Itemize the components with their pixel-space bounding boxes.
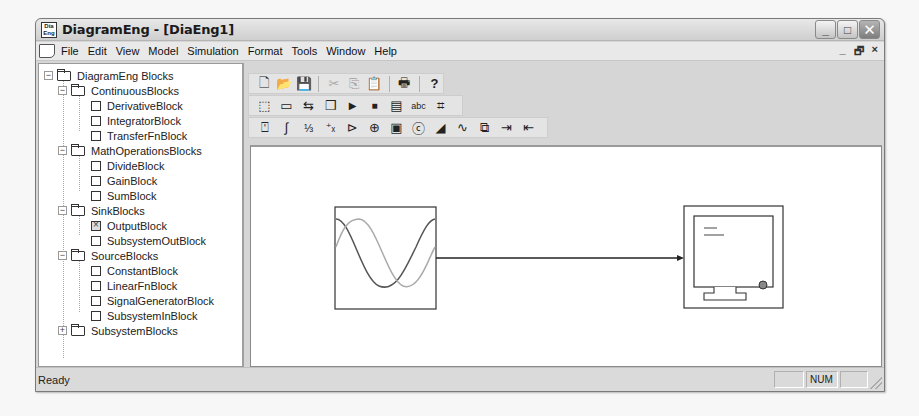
collapse-icon[interactable]: − [58,206,67,215]
tree-item-gain-block[interactable]: GainBlock [91,173,157,188]
tree-item-label: DivideBlock [107,160,164,172]
menu-window[interactable]: Window [326,45,365,57]
new-icon[interactable]: 🗋 [255,75,272,93]
toolbar-separator [318,76,319,92]
tree-item-label: TransferFnBlock [107,130,187,142]
main-window: Dia Eng DiagramEng - [DiaEng1] _ □ ✕ Fil… [35,18,885,392]
menu-file[interactable]: File [61,45,79,57]
menu-format[interactable]: Format [248,45,283,57]
tree-group-source[interactable]: − SourceBlocks [58,248,158,263]
tree-group-label: SourceBlocks [91,250,158,262]
tree-item-label: GainBlock [107,175,157,187]
help-icon[interactable]: ? [426,75,443,93]
title-bar[interactable]: Dia Eng DiagramEng - [DiaEng1] _ □ ✕ [36,19,884,41]
paste-icon[interactable]: 📋 [366,75,383,93]
stop-simulation-icon[interactable]: ■ [365,97,384,115]
tree-group-continuous[interactable]: − ContinuousBlocks [58,83,179,98]
mdi-restore-button[interactable]: 🗗 [854,43,864,62]
tree-group-label: SubsystemBlocks [91,325,178,337]
linear-fn-block-icon[interactable]: ◢ [431,119,450,137]
constant-block-icon[interactable]: ⓒ [409,119,428,137]
tree-item-transfer-fn-block[interactable]: TransferFnBlock [91,128,187,143]
print-icon[interactable]: 🖶 [396,75,413,93]
document-icon[interactable] [39,44,55,58]
tree-item-divide-block[interactable]: DivideBlock [91,158,164,173]
signal-generator-block-icon[interactable]: ∿ [453,119,472,137]
menu-tools[interactable]: Tools [292,45,318,57]
tree-group-label: ContinuousBlocks [91,85,179,97]
block-icon [91,236,101,246]
diagram-canvas[interactable] [250,145,882,367]
tree-item-integrator-block[interactable]: IntegratorBlock [91,113,181,128]
tree-item-label: DerivativeBlock [107,100,183,112]
tree-item-subsystem-out-block[interactable]: SubsystemOutBlock [91,233,206,248]
subsystem-out-block-icon[interactable]: ⇤ [519,119,538,137]
collapse-icon[interactable]: − [44,71,53,80]
folder-icon [71,326,85,336]
sum-block-icon[interactable]: ⊕ [365,119,384,137]
tree-group-math-operations[interactable]: − MathOperationsBlocks [58,143,202,158]
open-icon[interactable]: 📂 [275,75,292,93]
menu-edit[interactable]: Edit [88,45,107,57]
cut-icon[interactable]: ✂ [325,75,342,93]
collapse-icon[interactable]: − [58,251,67,260]
tree-item-linear-fn-block[interactable]: LinearFnBlock [91,278,177,293]
signal-generator-block[interactable] [335,207,436,309]
output-block-icon[interactable]: ▣ [387,119,406,137]
block-icon [91,281,101,291]
collapse-icon[interactable]: − [58,146,67,155]
select-all-icon[interactable]: ⬚ [255,97,274,115]
close-button[interactable]: ✕ [859,20,880,39]
build-model-icon[interactable]: ❒ [321,97,340,115]
tree-item-signal-generator-block[interactable]: SignalGeneratorBlock [91,293,214,308]
show-annotations-icon[interactable]: abc [409,97,428,115]
tree-group-sink[interactable]: − SinkBlocks [58,203,145,218]
frame-icon[interactable]: ▭ [277,97,296,115]
menu-help[interactable]: Help [374,45,397,57]
minimize-button[interactable]: _ [815,20,836,39]
tree-item-label: OutputBlock [107,220,167,232]
menu-model[interactable]: Model [148,45,178,57]
tree-item-subsystem-in-block[interactable]: SubsystemInBlock [91,308,197,323]
transfer-fn-block-icon[interactable]: ⅓ [299,119,318,137]
tree-item-derivative-block[interactable]: DerivativeBlock [91,98,183,113]
menu-simulation[interactable]: Simulation [187,45,238,57]
divide-block-icon[interactable]: ⁺ₓ [321,119,340,137]
auto-fit-icon[interactable]: ⇆ [299,97,318,115]
block-icon [91,311,101,321]
copy-icon[interactable]: ⎘ [346,75,363,93]
status-pane-num: NUM [806,371,838,388]
connection-line[interactable] [436,255,684,261]
track-multiple-items-icon[interactable]: ⌗ [431,97,450,115]
gain-block-icon[interactable]: ⊳ [343,119,362,137]
tree-item-sum-block[interactable]: SumBlock [91,188,157,203]
expand-icon[interactable]: + [58,326,67,335]
save-icon[interactable]: 💾 [295,75,312,93]
toolbar-separator [389,76,390,92]
integrator-block-icon[interactable]: ∫ [277,119,296,137]
status-bar: Ready NUM [36,367,884,391]
maximize-button[interactable]: □ [837,20,858,39]
tree-item-output-block[interactable]: OutputBlock [91,218,167,233]
tree-item-constant-block[interactable]: ConstantBlock [91,263,178,278]
mdi-close-button[interactable]: × [872,43,878,62]
tree-root[interactable]: − DiagramEng Blocks [44,68,174,83]
tree-item-label: ConstantBlock [107,265,178,277]
tree-group-subsystem[interactable]: + SubsystemBlocks [58,323,178,338]
folder-icon [71,146,85,156]
output-block[interactable] [684,206,783,308]
collapse-icon[interactable]: − [58,86,67,95]
menu-view[interactable]: View [116,45,140,57]
window-title: DiagramEng - [DiaEng1] [62,22,234,37]
mdi-minimize-button[interactable]: _ [839,43,845,62]
subsystem-in-block-icon[interactable]: ⇥ [497,119,516,137]
subsystem-block-icon[interactable]: ⧉ [475,119,494,137]
app-icon[interactable]: Dia Eng [41,22,57,38]
block-library-tree[interactable]: − DiagramEng Blocks − ContinuousBlocks D… [38,63,244,367]
resize-grip[interactable] [870,377,882,389]
block-icon-selected [91,221,101,231]
numerical-solver-icon[interactable]: ▤ [387,97,406,115]
derivative-block-icon[interactable]: ⍞ [255,119,274,137]
block-icon [91,176,101,186]
start-simulation-icon[interactable]: ▶ [343,97,362,115]
